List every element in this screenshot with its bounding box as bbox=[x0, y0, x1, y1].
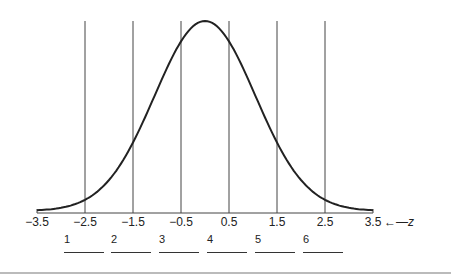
answer-blank-2[interactable] bbox=[111, 252, 151, 253]
tick-label: 1.5 bbox=[269, 215, 286, 229]
answer-blank-4[interactable] bbox=[207, 252, 247, 253]
region-label: 2 bbox=[111, 233, 117, 245]
region-label: 1 bbox=[64, 233, 70, 245]
region-label: 5 bbox=[255, 233, 261, 245]
region-label: 6 bbox=[303, 233, 309, 245]
tick-label: −3.5 bbox=[25, 215, 49, 229]
answer-blank-1[interactable] bbox=[64, 252, 104, 253]
answer-blank-5[interactable] bbox=[255, 252, 295, 253]
tick-label: 3.5 bbox=[365, 215, 382, 229]
answer-blank-6[interactable] bbox=[303, 252, 343, 253]
tick-label: −2.5 bbox=[73, 215, 97, 229]
arrow-left-icon: ← bbox=[384, 215, 396, 229]
tick-label: −1.5 bbox=[121, 215, 145, 229]
z-axis-label: ←—z bbox=[384, 215, 414, 229]
region-label: 4 bbox=[207, 233, 213, 245]
tick-label: 0.5 bbox=[221, 215, 238, 229]
answer-blank-3[interactable] bbox=[159, 252, 199, 253]
tick-label: −0.5 bbox=[169, 215, 193, 229]
region-label: 3 bbox=[159, 233, 165, 245]
normal-curve bbox=[37, 21, 373, 210]
tick-label: 2.5 bbox=[317, 215, 334, 229]
